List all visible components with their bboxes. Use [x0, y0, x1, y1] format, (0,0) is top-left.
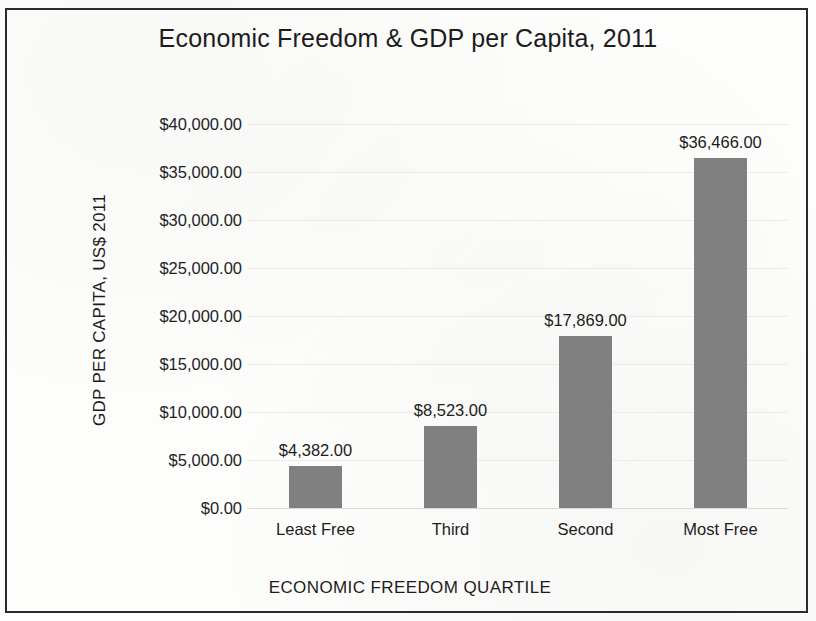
- y-tick-label: $35,000.00: [112, 163, 242, 182]
- x-category-label: Most Free: [653, 520, 788, 539]
- y-tick-label: $40,000.00: [112, 115, 242, 134]
- x-category-label: Second: [518, 520, 653, 539]
- y-tick-label: $20,000.00: [112, 307, 242, 326]
- y-tick-label: $0.00: [112, 499, 242, 518]
- y-axis-tick-labels: $0.00$5,000.00$10,000.00$15,000.00$20,00…: [106, 0, 242, 621]
- y-tick-label: $30,000.00: [112, 211, 242, 230]
- y-tick-label: $15,000.00: [112, 355, 242, 374]
- y-tick-label: $10,000.00: [112, 403, 242, 422]
- y-tick-label: $5,000.00: [112, 451, 242, 470]
- x-axis-category-labels: Least FreeThirdSecondMost Free: [248, 0, 788, 621]
- y-tick-label: $25,000.00: [112, 259, 242, 278]
- x-category-label: Least Free: [248, 520, 383, 539]
- x-category-label: Third: [383, 520, 518, 539]
- chart-page: Economic Freedom & GDP per Capita, 2011 …: [0, 0, 816, 621]
